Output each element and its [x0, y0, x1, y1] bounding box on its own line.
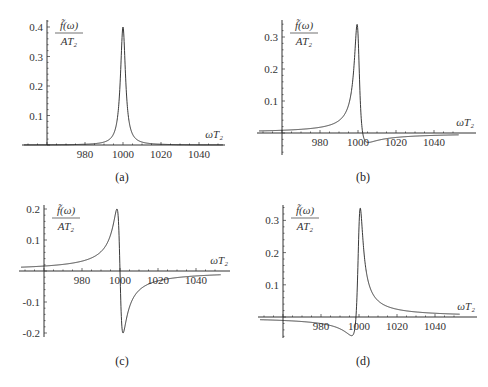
y-axis-label-numerator: f̃(ω): [57, 204, 75, 217]
data-curve: [24, 27, 223, 145]
chart-panel-b: 9801000102010400.10.20.3f̃(ω)AT₂ωT₂(b): [257, 19, 476, 184]
x-tick-label: 980: [312, 136, 329, 148]
x-tick-label: 1040: [424, 320, 447, 332]
y-axis-label-denominator: AT₂: [295, 35, 312, 47]
y-tick-label: 0.3: [264, 31, 278, 43]
y-axis-label-numerator: f̃(ω): [60, 19, 78, 32]
y-tick-label: 0.1: [29, 110, 43, 122]
x-tick-label: 980: [313, 320, 330, 332]
x-axis-label: ωT₂: [205, 128, 223, 140]
y-tick-label: 0.2: [26, 203, 40, 215]
chart-panel-d: 9801000102010400.10.20.3f̃(ω)AT₂ωT₂(d): [258, 204, 477, 368]
panel-caption: (c): [115, 354, 128, 368]
x-tick-label: 980: [77, 148, 94, 160]
y-axis-label-denominator: AT₂: [57, 220, 74, 232]
x-axis-label: ωT₂: [456, 116, 474, 128]
y-tick-label: 0.3: [265, 214, 279, 226]
y-axis-label-numerator: f̃(ω): [296, 204, 314, 217]
y-tick-label: -0.1: [23, 296, 40, 308]
panel-caption: (b): [356, 170, 370, 184]
y-tick-label: 0.1: [265, 279, 279, 291]
y-tick-label: 0.1: [264, 95, 278, 107]
x-tick-label: 980: [74, 274, 91, 286]
x-tick-label: 1040: [423, 136, 446, 148]
x-axis-label: ωT₂: [210, 254, 228, 266]
x-tick-label: 1020: [386, 320, 409, 332]
x-tick-label: 1000: [112, 148, 135, 160]
y-tick-label: 0.2: [29, 80, 43, 92]
x-tick-label: 1020: [150, 148, 173, 160]
x-tick-label: 1020: [147, 274, 170, 286]
x-axis-label: ωT₂: [457, 300, 475, 312]
x-tick-label: 1040: [188, 148, 211, 160]
y-tick-label: 0.2: [264, 63, 278, 75]
y-axis-label-denominator: AT₂: [296, 220, 313, 232]
y-axis-label-numerator: f̃(ω): [295, 19, 313, 32]
y-tick-label: 0.4: [29, 21, 43, 33]
y-tick-label: -0.2: [23, 327, 40, 339]
figure-canvas: 9801000102010400.10.20.30.4f̃(ω)AT₂ωT₂(a…: [0, 0, 488, 387]
panel-caption: (d): [356, 354, 370, 368]
chart-panel-c: 980100010201040-0.2-0.10.10.2f̃(ω)AT₂ωT₂…: [19, 203, 230, 368]
data-curve: [259, 24, 459, 142]
y-axis-label-denominator: AT₂: [60, 35, 77, 47]
chart-panel-a: 9801000102010400.10.20.30.4f̃(ω)AT₂ωT₂(a…: [22, 19, 225, 184]
y-tick-label: 0.3: [29, 51, 43, 63]
panel-caption: (a): [115, 170, 128, 184]
y-tick-label: 0.1: [26, 234, 40, 246]
x-tick-label: 1000: [348, 320, 371, 332]
y-tick-label: 0.2: [265, 247, 279, 259]
